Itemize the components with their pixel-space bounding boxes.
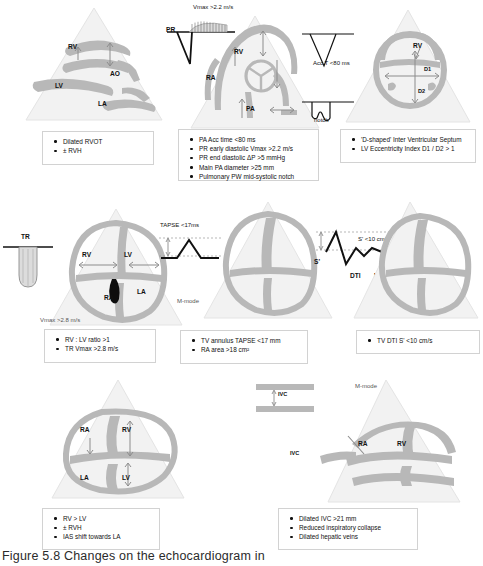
finding-item: RA area >18 cm² xyxy=(201,345,303,354)
label-ivc-mmode: IVC xyxy=(278,391,287,397)
finding-item: TV DTI S' <10 cm/s xyxy=(377,336,475,345)
label-d2: D2 xyxy=(418,88,425,94)
finding-item: Dilated IVC >21 mm xyxy=(299,514,413,523)
label-tapse: TAPSE <17ms xyxy=(160,222,199,228)
finding-item: Main PA diameter >25 mm xyxy=(199,163,314,172)
label-la-a4c: LA xyxy=(137,288,146,295)
findings-box-pa: PA Acc time <80 ms PR early diastolic Vm… xyxy=(178,129,319,181)
label-ra-ivc: RA xyxy=(358,440,368,447)
finding-item: TV annulus TAPSE <17 mm xyxy=(201,336,303,345)
label-la-plax: LA xyxy=(98,100,107,107)
label-tr: TR xyxy=(21,233,30,240)
label-pr-vmax: Vmax >2.2 m/s xyxy=(193,4,233,10)
finding-item: Dilated RVOT xyxy=(63,137,149,146)
findings-box-rvlv: RV : LV ratio >1 TR Vmax >2.8 m/s xyxy=(44,329,156,363)
label-d1: D1 xyxy=(424,66,431,72)
psax-sector-diagram xyxy=(340,8,476,126)
label-rv-subcostal: RV xyxy=(122,426,131,433)
finding-item: TR Vmax >2.8 m/s xyxy=(65,344,151,353)
label-pa-rvot: PA xyxy=(246,105,255,112)
finding-item: PR end diastolic ΔP >5 mmHg xyxy=(199,153,314,162)
figure-caption: Figure 5.8 Changes on the echocardiogram… xyxy=(2,549,265,563)
label-rv-rvot: RV xyxy=(234,48,243,55)
label-lv-subcostal: LV xyxy=(122,474,130,481)
label-ao-plax: AO xyxy=(110,70,120,77)
label-tr-vmax: Vmax >2.8 m/s xyxy=(40,317,80,323)
finding-item: Dilated hepatic veins xyxy=(299,532,413,541)
label-ra-a4c: RA xyxy=(104,294,114,301)
label-rv-psax: RV xyxy=(413,42,422,49)
finding-item: Pulmonary PW mid-systolic notch xyxy=(199,172,314,181)
label-s-prime: S' xyxy=(314,258,320,265)
label-rv-ivc: RV xyxy=(397,440,406,447)
label-ivc-sector: IVC xyxy=(290,450,299,456)
finding-item: RV : LV ratio >1 xyxy=(65,335,151,344)
findings-box-tapse: TV annulus TAPSE <17 mm RA area >18 cm² xyxy=(180,330,308,364)
finding-item: ± RVH xyxy=(63,146,149,155)
label-lv-plax: LV xyxy=(55,82,63,89)
ivc-sector-diagram xyxy=(290,378,480,508)
finding-item: PR early diastolic Vmax >2.2 m/s xyxy=(199,144,314,153)
findings-box-subcostal: RV > LV ± RVH IAS shift towards LA xyxy=(42,508,160,550)
label-rv-plax: RV xyxy=(68,43,77,50)
finding-item: Reduced inspiratory collapse xyxy=(299,523,413,532)
label-pr: PR xyxy=(166,26,175,33)
label-ra-rvot: RA xyxy=(206,74,216,81)
findings-box-septum: 'D-shaped' Inter Ventricular Septum LV E… xyxy=(340,129,476,163)
label-rv-a4c: RV xyxy=(82,251,91,258)
a4c-sector-diagram-tdi xyxy=(352,200,483,322)
plax-sector-diagram xyxy=(18,4,170,124)
findings-box-tdi: TV DTI S' <10 cm/s xyxy=(356,330,480,354)
finding-item: PA Acc time <80 ms xyxy=(199,135,314,144)
finding-item: IAS shift towards LA xyxy=(63,532,155,541)
subcostal-sector-diagram xyxy=(42,378,194,502)
finding-item: LV Eccentricity Index D1 / D2 > 1 xyxy=(361,144,471,153)
finding-item: 'D-shaped' Inter Ventricular Septum xyxy=(361,135,471,144)
label-la-subcostal: LA xyxy=(80,474,89,481)
figure-echo-pulmonary-hypertension: RV AO LV LA Dilated RVOT ± RVH xyxy=(0,0,483,566)
finding-item: ± RVH xyxy=(63,523,155,532)
findings-box-rvot: Dilated RVOT ± RVH xyxy=(42,131,154,165)
label-ra-subcostal: RA xyxy=(80,426,90,433)
findings-box-ivc: Dilated IVC >21 mm Reduced inspiratory c… xyxy=(278,508,418,550)
label-notch: notch xyxy=(314,117,329,123)
label-lv-a4c: LV xyxy=(124,251,132,258)
finding-item: RV > LV xyxy=(63,514,155,523)
